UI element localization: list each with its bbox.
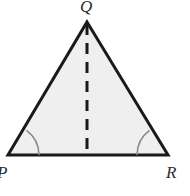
triangle-diagram-svg	[0, 0, 190, 196]
vertex-label-q: Q	[80, 0, 92, 15]
vertex-label-r: R	[166, 164, 176, 181]
vertex-label-p: P	[0, 164, 7, 181]
geometry-figure: Q P R	[0, 0, 190, 196]
